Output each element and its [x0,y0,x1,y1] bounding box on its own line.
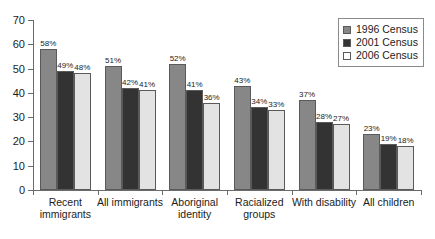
bar-value-label: 43% [230,77,255,85]
x-axis-tick [356,190,357,195]
legend-item[interactable]: 1996 Census [343,23,418,36]
y-axis-tick-label: 60 [0,39,25,50]
legend-label: 1996 Census [356,24,418,35]
bar[interactable] [40,49,57,190]
x-axis-category-label: All children [350,196,427,208]
x-axis-tick [33,190,34,195]
bar-group: 52%41%36% [169,20,220,190]
legend-swatch-icon [343,26,351,34]
bar-value-label: 41% [135,81,160,89]
bar-value-label: 18% [393,137,418,145]
x-axis-category-label-line: groups [221,208,298,220]
y-axis-tick-label: 0 [0,185,25,196]
x-axis-category-label-line: All children [350,196,427,208]
y-axis-tick-label: 10 [0,160,25,171]
bar-value-label: 27% [329,115,354,123]
bar-value-label: 58% [36,40,61,48]
y-axis-tick-label: 50 [0,63,25,74]
legend-label: 2006 Census [356,50,418,61]
bar[interactable] [203,103,220,190]
bar-value-label: 33% [264,101,289,109]
legend-item[interactable]: 2006 Census [343,49,418,62]
bar-group: 43%34%33% [234,20,285,190]
legend-swatch-icon [343,39,351,47]
bar-value-label: 41% [182,81,207,89]
x-axis-tick [227,190,228,195]
bar-value-label: 36% [199,94,224,102]
legend-item[interactable]: 2001 Census [343,36,418,49]
bar-value-label: 48% [70,64,95,72]
legend-label: 2001 Census [356,37,418,48]
bar[interactable] [397,146,414,190]
x-axis-tick [292,190,293,195]
bar[interactable] [122,88,139,190]
bar[interactable] [316,122,333,190]
bar-chart: 010203040506070 58%49%48%51%42%41%52%41%… [0,0,435,239]
bar-value-label: 37% [295,91,320,99]
bar[interactable] [380,144,397,190]
bar[interactable] [251,107,268,190]
y-axis-tick-label: 20 [0,136,25,147]
y-axis-tick-label: 30 [0,112,25,123]
bar-value-label: 23% [359,125,384,133]
x-axis-tick [421,190,422,195]
x-axis-category-label-line: immigrants [27,208,104,220]
legend-swatch-icon [343,52,351,60]
bar-group: 51%42%41% [105,20,156,190]
x-axis-tick [162,190,163,195]
x-axis-tick [98,190,99,195]
bar[interactable] [268,110,285,190]
y-axis-tick-label: 70 [0,15,25,26]
bar[interactable] [186,90,203,190]
bar[interactable] [57,71,74,190]
y-axis-tick-label: 40 [0,87,25,98]
bar[interactable] [74,73,91,190]
bar-group: 58%49%48% [40,20,91,190]
bar[interactable] [139,90,156,190]
bar[interactable] [333,124,350,190]
chart-legend: 1996 Census2001 Census2006 Census [338,18,424,67]
bar-value-label: 51% [101,57,126,65]
bar-value-label: 52% [165,55,190,63]
